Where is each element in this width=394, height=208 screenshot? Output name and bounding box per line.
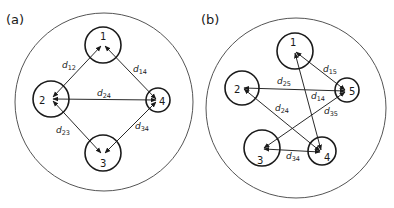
edge-a-14-label: d14 [133, 64, 147, 76]
edge-a-24-label: d24 [97, 88, 111, 100]
node-b-5 [335, 78, 359, 102]
node-b-4 [308, 137, 336, 165]
node-a-3-label: 3 [100, 158, 106, 169]
node-b-1-label: 1 [290, 37, 296, 48]
edge-b-25-label: d25 [277, 76, 291, 88]
panel-a-label: (a) [6, 12, 24, 27]
edge-b-14-label: d14 [311, 91, 325, 103]
edge-b-34-label: d34 [286, 151, 300, 163]
edge-b-35 [264, 92, 345, 148]
node-b-2-label: 2 [234, 84, 240, 95]
node-b-4-label: 4 [324, 152, 330, 163]
edge-b-34 [264, 149, 320, 152]
edge-a-34-label: d34 [135, 121, 149, 133]
edge-a-12 [53, 46, 101, 97]
node-a-1-label: 1 [100, 31, 106, 42]
network-distance-diagram: (a) 1 2 3 4 d12 d14 d24 d23 d34 (b) [0, 0, 394, 208]
edge-a-23-label: d23 [56, 125, 70, 137]
edge-a-14 [105, 46, 156, 99]
node-b-5-label: 5 [349, 86, 355, 97]
node-a-4-label: 4 [159, 96, 165, 107]
node-a-2-label: 2 [39, 95, 45, 106]
edge-a-12-label: d12 [62, 60, 76, 72]
panel-b-label: (b) [201, 12, 219, 27]
panel-a: (a) 1 2 3 4 d12 d14 d24 d23 d34 [6, 12, 193, 191]
edge-b-35-label: d35 [324, 106, 338, 118]
node-b-3-label: 3 [257, 155, 263, 166]
edge-b-24-label: d24 [275, 103, 289, 115]
panel-b: (b) 1 2 3 4 5 d15 d25 d14 d24 d35 d34 [201, 12, 386, 198]
